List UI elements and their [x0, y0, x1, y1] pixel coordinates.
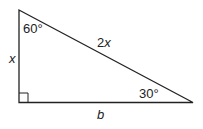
side-left-label: x	[8, 51, 16, 66]
right-angle-marker	[19, 93, 28, 103]
side-bottom-label: b	[97, 107, 104, 122]
triangle-diagram: 60° 30° x 2x b	[0, 0, 203, 129]
angle-top-label: 60°	[23, 21, 43, 36]
side-hypotenuse-label: 2x	[97, 35, 111, 50]
angle-right-label: 30°	[139, 86, 159, 101]
triangle	[19, 10, 193, 103]
hypotenuse-coefficient: 2	[97, 35, 104, 50]
hypotenuse-variable: x	[103, 35, 111, 50]
